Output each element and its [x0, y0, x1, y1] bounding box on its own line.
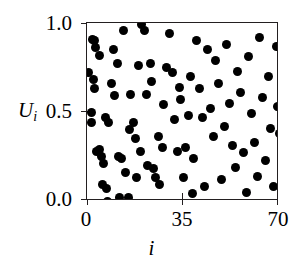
data-point — [209, 132, 218, 141]
data-point — [102, 184, 111, 193]
data-point — [266, 124, 275, 133]
data-point — [231, 163, 240, 172]
data-point — [117, 154, 126, 163]
data-point — [159, 100, 168, 109]
plot-frame — [86, 22, 278, 200]
data-point — [129, 118, 138, 127]
data-point — [184, 111, 193, 120]
data-point — [121, 168, 130, 177]
y-tick-label-1: 1.0 — [10, 13, 72, 34]
data-point — [200, 182, 209, 191]
data-point — [211, 56, 220, 65]
data-point — [175, 83, 184, 92]
data-point — [192, 36, 201, 45]
data-point — [87, 118, 96, 127]
data-point — [99, 159, 108, 168]
data-point — [206, 104, 215, 113]
data-point — [214, 79, 223, 88]
data-point — [228, 141, 237, 150]
data-point — [132, 173, 141, 182]
data-point — [261, 156, 270, 165]
data-point — [109, 45, 118, 54]
x-tick-mark-0 — [87, 199, 88, 205]
data-point — [181, 143, 190, 152]
data-point — [113, 59, 122, 68]
data-point — [222, 40, 231, 49]
data-point — [124, 193, 133, 199]
data-point — [198, 113, 207, 122]
x-tick-mark-70 — [277, 199, 278, 205]
data-point — [269, 182, 277, 191]
data-point — [140, 26, 149, 35]
data-point — [179, 173, 188, 182]
data-point — [170, 115, 179, 124]
data-point — [149, 164, 158, 173]
data-point — [247, 109, 256, 118]
x-tick-label-0: 0 — [56, 209, 116, 230]
data-point — [188, 189, 197, 198]
data-point — [255, 33, 264, 42]
data-point — [131, 134, 140, 143]
data-point — [155, 180, 164, 189]
y-tick-label-0: 0.0 — [10, 189, 72, 210]
x-axis-title: i — [0, 238, 303, 259]
y-tick-label-0-5: 0.5 — [10, 101, 72, 122]
data-point — [95, 51, 104, 60]
data-point — [239, 148, 248, 157]
data-point — [168, 68, 177, 77]
x-tick-label-70: 70 — [248, 209, 303, 230]
data-point — [110, 91, 119, 100]
data-point — [244, 52, 253, 61]
data-point — [272, 42, 277, 51]
data-point — [220, 122, 229, 131]
x-tick-mark-35 — [182, 199, 183, 205]
data-point — [134, 61, 143, 70]
data-point — [146, 59, 155, 68]
data-point — [104, 118, 113, 127]
data-point — [158, 143, 167, 152]
data-point — [258, 93, 267, 102]
data-point — [147, 77, 156, 86]
data-point — [119, 26, 128, 35]
data-point — [275, 129, 278, 138]
data-point — [253, 172, 262, 181]
data-point — [242, 188, 251, 197]
data-point — [154, 132, 163, 141]
data-point — [195, 84, 204, 93]
data-point — [107, 79, 116, 88]
data-point — [273, 102, 277, 111]
data-point — [165, 29, 174, 38]
data-point — [103, 197, 112, 200]
data-point — [90, 84, 99, 93]
data-point — [233, 67, 242, 76]
data-point — [217, 175, 226, 184]
data-point — [203, 45, 212, 54]
data-point — [89, 75, 98, 84]
data-point — [142, 90, 151, 99]
data-point — [87, 108, 96, 117]
scatter-plot-figure: Ui 1.0 0.5 0.0 0 35 70 i — [0, 0, 303, 270]
x-tick-label-35: 35 — [152, 209, 212, 230]
data-point — [189, 154, 198, 163]
data-point — [126, 90, 135, 99]
data-point — [136, 147, 145, 156]
data-points-layer — [87, 23, 277, 199]
data-point — [236, 88, 245, 97]
data-point — [250, 138, 259, 147]
data-point — [186, 72, 195, 81]
data-point — [176, 95, 185, 104]
data-point — [264, 72, 273, 81]
data-point — [225, 99, 234, 108]
